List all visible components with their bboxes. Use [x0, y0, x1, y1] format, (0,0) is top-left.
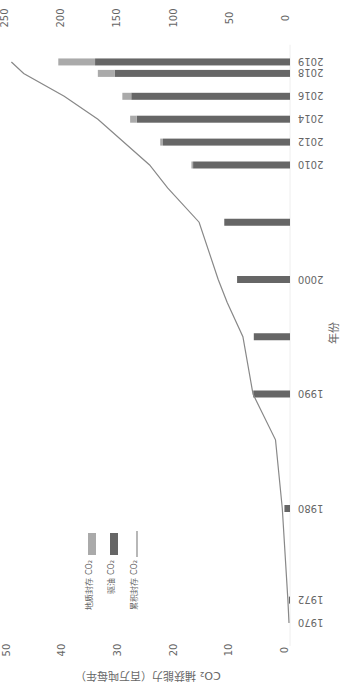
category-label-2012: 2012 [298, 136, 323, 147]
bar-eor-2012 [163, 139, 290, 146]
category-label-1972: 1972 [298, 594, 323, 605]
bars-group [58, 58, 290, 603]
bar-geological-2019 [58, 58, 95, 65]
bar-eor-2019 [95, 58, 290, 65]
legend: 地质封存 CO₂驱油 CO₂累积封存 CO₂ [84, 531, 139, 610]
category-labels: 1970197219801990200020102012201420162018… [298, 56, 323, 628]
category-label-2019: 2019 [298, 56, 323, 67]
category-label-1990: 1990 [298, 388, 323, 399]
secondary-tick-150: 150 [111, 8, 122, 27]
secondary-tick-100: 100 [168, 8, 179, 27]
legend-label-0: 地质封存 CO₂ [84, 560, 94, 610]
chart: 01020304050 050100150200250 197019721980… [0, 0, 360, 685]
bar-eor-2014 [137, 116, 290, 123]
bar-eor-2005 [224, 219, 290, 226]
primary-tick-10: 10 [223, 644, 234, 657]
bar-eor-2018 [115, 70, 290, 77]
secondary-tick-250: 250 [0, 8, 10, 27]
category-label-2016: 2016 [298, 90, 323, 101]
bar-eor-1972 [289, 597, 290, 604]
secondary-tick-0: 0 [280, 15, 291, 21]
legend-swatch-0 [88, 533, 96, 555]
y-axis-label: CO₂ 捕获能力（百万吨每年） [75, 669, 220, 683]
primary-tick-20: 20 [168, 644, 179, 657]
line-layer [11, 62, 289, 623]
cumulative-line [11, 62, 289, 623]
bar-geological-2016 [122, 93, 131, 100]
bar-geological-2012 [160, 139, 163, 146]
bar-geological-2018 [98, 70, 115, 77]
legend-swatch-1 [110, 533, 118, 555]
category-label-2018: 2018 [298, 67, 323, 78]
primary-tick-0: 0 [279, 647, 290, 653]
bar-eor-2010 [193, 162, 290, 169]
category-label-2000: 2000 [298, 274, 323, 285]
bar-geological-2014 [130, 116, 137, 123]
category-label-1980: 1980 [298, 503, 323, 514]
legend-label-2: 累积封存 CO₂ [129, 560, 139, 610]
category-label-1970: 1970 [298, 617, 323, 628]
primary-tick-30: 30 [112, 644, 123, 657]
category-label-2010: 2010 [298, 159, 323, 170]
bar-eor-1990 [253, 391, 290, 398]
x-axis-label: 年份 [327, 322, 341, 344]
secondary-axis-ticks: 050100150200250 [0, 8, 291, 27]
primary-axis-ticks: 01020304050 [1, 644, 291, 657]
primary-tick-40: 40 [56, 644, 67, 657]
secondary-tick-50: 50 [224, 12, 235, 25]
chart-svg: 01020304050 050100150200250 197019721980… [0, 0, 360, 685]
bar-eor-2000 [237, 276, 290, 283]
category-label-2014: 2014 [298, 113, 323, 124]
legend-label-1: 驱油 CO₂ [106, 560, 116, 594]
primary-tick-50: 50 [1, 644, 12, 657]
secondary-tick-200: 200 [55, 8, 66, 27]
bar-eor-2016 [131, 93, 290, 100]
bar-eor-1980 [284, 505, 290, 512]
bar-geological-2010 [191, 162, 193, 169]
bar-eor-1995 [254, 333, 290, 340]
